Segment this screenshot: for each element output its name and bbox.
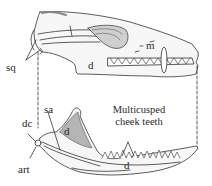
label-sa: sa xyxy=(44,104,53,115)
skull-drawing xyxy=(0,0,212,186)
label-cheek-teeth-line2: cheek teeth xyxy=(106,116,172,128)
canine xyxy=(161,47,167,73)
label-art: art xyxy=(18,164,30,175)
art-pointer xyxy=(30,147,36,158)
label-d-lower: d xyxy=(124,160,130,171)
label-cheek-teeth: Multicusped cheek teeth xyxy=(106,104,172,128)
skull-diagram: sq d m dc sa d d art Multicusped cheek t… xyxy=(0,0,212,186)
label-dc: dc xyxy=(22,118,32,129)
label-m: m xyxy=(146,40,155,51)
dc-pointer xyxy=(28,134,36,142)
label-sq: sq xyxy=(6,62,16,73)
label-d-upper: d xyxy=(88,60,94,71)
label-cheek-teeth-line1: Multicusped xyxy=(106,104,172,116)
label-d-coronoid: d xyxy=(64,126,70,137)
